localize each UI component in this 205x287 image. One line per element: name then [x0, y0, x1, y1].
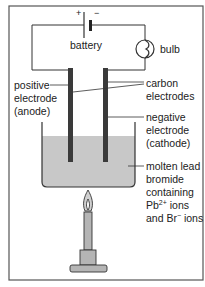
carbon-electrodes-label-2: electrodes	[146, 90, 194, 103]
electrolyte-label-2: bromide	[146, 173, 184, 186]
bulb-label: bulb	[160, 43, 180, 56]
pb-text: Pb	[146, 199, 159, 211]
beaker	[42, 122, 135, 187]
battery-label: battery	[70, 39, 102, 52]
battery-plus-sign: +	[76, 7, 81, 20]
br-text: and Br	[146, 212, 177, 224]
negative-electrode-label-2: electrode	[146, 124, 189, 137]
bulb-icon	[136, 40, 154, 58]
negative-electrode-cathode	[103, 68, 108, 162]
positive-electrode-label-3: (anode)	[14, 105, 50, 118]
positive-electrode-label-2: electrode	[14, 92, 57, 105]
carbon-electrodes-label-1: carbon	[146, 77, 178, 90]
molten-lead-bromide-liquid	[42, 136, 135, 187]
electrolyte-label-4: Pb2+ ions	[146, 199, 189, 212]
positive-electrode-label-1: positive	[14, 79, 50, 92]
negative-electrode-label-3: (cathode)	[146, 137, 190, 150]
negative-electrode-label-1: negative	[146, 111, 186, 124]
br-ions-text: ions	[181, 212, 203, 224]
positive-electrode-anode	[68, 68, 73, 162]
electrolyte-label-1: molten lead	[146, 160, 200, 173]
pb-charge: 2+	[159, 199, 167, 206]
battery-minus-sign: −	[94, 7, 99, 20]
battery-icon	[84, 12, 92, 38]
electrolyte-label-3: containing	[146, 186, 194, 199]
pb-ions-text: ions	[167, 199, 189, 211]
bunsen-burner-icon	[70, 190, 107, 272]
electrolyte-label-5: and Br− ions	[146, 212, 203, 225]
